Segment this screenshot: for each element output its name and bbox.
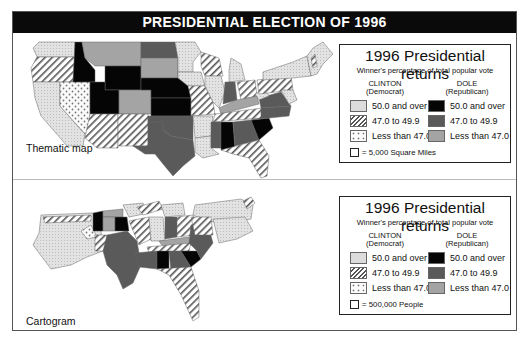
figure-frame: PRESIDENTIAL ELECTION OF 1996 — [12, 11, 517, 331]
legend-dole-50: 50.0 and over — [428, 252, 505, 264]
legend-clinton-50: 50.0 and over — [350, 100, 427, 112]
dole-header: DOLE(Republican) — [432, 232, 502, 248]
legend-clinton-under47: Less than 47.0 — [350, 282, 431, 294]
clinton-header: CLINTON(Democrat) — [350, 80, 420, 96]
legend-clinton-47: 47.0 to 49.9 — [350, 267, 420, 279]
clinton-header: CLINTON(Democrat) — [350, 232, 420, 248]
cartogram-label: Cartogram — [26, 315, 76, 327]
legend-title: 1996 Presidential returns — [340, 199, 510, 235]
legend-dole-47: 47.0 to 49.9 — [428, 115, 498, 127]
legend-dole-under47: Less than 47.0 — [428, 282, 509, 294]
light-fill-swatch — [350, 100, 367, 112]
black-swatch — [428, 100, 445, 112]
dole-header: DOLE(Republican) — [432, 80, 502, 96]
legend-thematic: 1996 Presidential returns Winner's perce… — [339, 44, 511, 163]
scale-square-icon — [350, 148, 359, 157]
hatch-swatch — [350, 115, 367, 127]
legend-subtitle: Winner's percentage of total popular vot… — [340, 66, 510, 75]
section-divider — [13, 179, 516, 180]
legend-clinton-50: 50.0 and over — [350, 252, 427, 264]
legend-title: 1996 Presidential returns — [340, 47, 510, 83]
cartogram-map — [31, 195, 271, 330]
black-swatch — [428, 252, 445, 264]
scale-square-icon — [350, 300, 359, 309]
dark-gray-swatch — [428, 115, 445, 127]
legend-dole-47: 47.0 to 49.9 — [428, 267, 498, 279]
scale-note: = 500,000 People — [350, 300, 423, 309]
dotted-swatch — [350, 130, 367, 142]
legend-clinton-under47: Less than 47.0 — [350, 130, 431, 142]
legend-dole-under47: Less than 47.0 — [428, 130, 509, 142]
dotted-swatch — [350, 282, 367, 294]
light-fill-swatch — [350, 252, 367, 264]
scale-note: = 5,000 Square Miles — [350, 148, 436, 157]
hatch-swatch — [350, 267, 367, 279]
thematic-map-label: Thematic map — [26, 142, 93, 154]
figure-title: PRESIDENTIAL ELECTION OF 1996 — [13, 12, 516, 33]
dark-gray-swatch — [428, 267, 445, 279]
legend-cartogram: 1996 Presidential returns Winner's perce… — [339, 196, 511, 315]
gray-swatch — [428, 282, 445, 294]
legend-subtitle: Winner's percentage of total popular vot… — [340, 218, 510, 227]
gray-swatch — [428, 130, 445, 142]
legend-dole-50: 50.0 and over — [428, 100, 505, 112]
legend-clinton-47: 47.0 to 49.9 — [350, 115, 420, 127]
thematic-map — [23, 36, 333, 181]
